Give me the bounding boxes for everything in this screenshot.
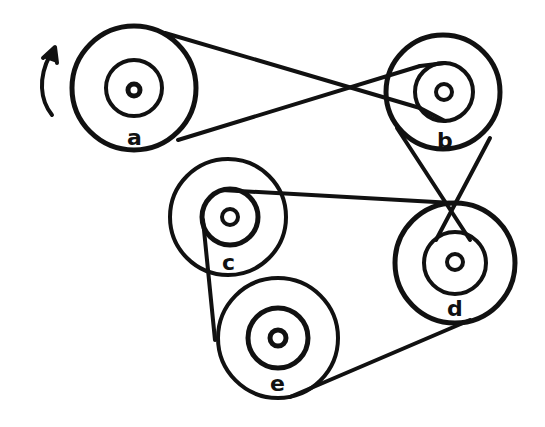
pulley-label-d: d <box>447 296 463 321</box>
pulley-label-e: e <box>270 371 285 396</box>
pulley-label-a: a <box>127 125 142 150</box>
pulley-label-b: b <box>437 128 453 153</box>
belt-pulley-diagram: a b c d e <box>0 0 545 427</box>
belt-c-d-e <box>203 190 470 397</box>
pulley-a: a <box>72 26 196 150</box>
pulley-e: e <box>218 278 338 398</box>
pulley-d: d <box>395 203 515 323</box>
pulley-label-c: c <box>222 250 235 275</box>
rotation-arrow-icon <box>42 47 57 115</box>
pulley-c: c <box>170 159 286 275</box>
